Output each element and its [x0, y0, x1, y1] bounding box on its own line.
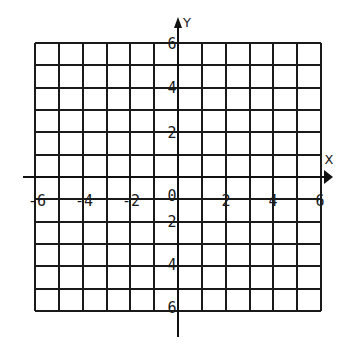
y-tick-label: 6 — [167, 299, 176, 317]
y-tick-label: 6 — [167, 35, 176, 53]
x-tick-label: 2 — [221, 192, 230, 210]
x-tick-label: -4 — [75, 192, 93, 210]
y-tick-label: 2 — [167, 213, 176, 231]
x-tick-label: 6 — [315, 192, 324, 210]
x-tick-label: 4 — [268, 192, 277, 210]
y-axis-arrow-icon — [174, 17, 182, 28]
x-tick-label: -2 — [122, 192, 140, 210]
x-tick-label: -6 — [28, 192, 46, 210]
coordinate-grid-diagram: X Y -6-4-22466422460 — [0, 0, 342, 346]
x-axis-arrow-icon — [324, 170, 333, 184]
x-axis-name: X — [325, 152, 334, 167]
tick-labels: -6-4-22466422460 — [28, 35, 325, 317]
y-tick-label: 2 — [167, 124, 176, 142]
y-tick-label: 4 — [167, 256, 176, 274]
y-tick-label: 4 — [167, 79, 176, 97]
origin-label: 0 — [167, 187, 176, 205]
y-axis-name: Y — [182, 15, 191, 30]
